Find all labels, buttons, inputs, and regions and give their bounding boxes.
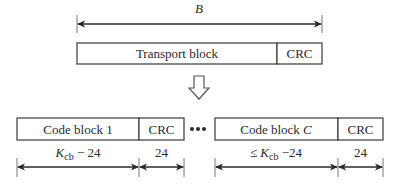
code-block-1-label: Code block 1	[43, 122, 112, 137]
transport-block-label: Transport block	[136, 46, 219, 61]
code-block-c-crc-length-label: 24	[354, 145, 368, 160]
code-block-1-length-label: Kcb − 24	[55, 145, 101, 162]
code-block-first-row: Code block 1 CRC	[17, 118, 184, 140]
code-block-last-row: Code block C CRC	[215, 118, 383, 140]
length-b-label: B	[195, 1, 203, 16]
length-b-dimension: B	[77, 1, 322, 33]
code-block-c-length-label: ≤ Kcb −24	[250, 145, 303, 162]
ellipsis-dots	[190, 127, 206, 131]
segmentation-diagram: B Transport block CRC Code block 1 CRC C…	[0, 0, 398, 187]
code-block-c-crc-label: CRC	[347, 122, 373, 137]
code-block-c-label: Code block C	[240, 122, 312, 137]
code-block-c-dimensions: ≤ Kcb −24 24	[215, 145, 383, 177]
hollow-down-arrow-icon	[189, 76, 209, 99]
transport-crc-label: CRC	[286, 46, 312, 61]
code-block-1-dimensions: Kcb − 24 24	[17, 145, 184, 177]
transport-block-row: Transport block CRC	[77, 43, 322, 64]
code-block-1-crc-length-label: 24	[155, 145, 169, 160]
code-block-1-crc-label: CRC	[148, 122, 174, 137]
